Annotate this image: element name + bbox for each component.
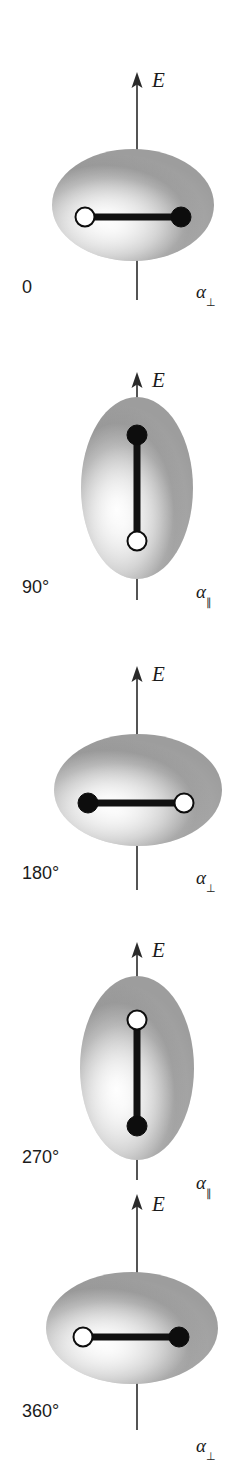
angle-label: 180° [22, 863, 59, 884]
angle-label: 360° [22, 1401, 59, 1422]
panel-360-degrees: E 360° α⊥ [0, 1180, 239, 1473]
atom-light [127, 531, 148, 552]
molecule-dumbbell [73, 205, 193, 229]
angle-label: 270° [22, 1147, 59, 1168]
atom-light [127, 1010, 148, 1031]
ellipsoid-rim [54, 734, 222, 846]
panel-270-degrees: E 270° α∥ [0, 890, 239, 1180]
atom-light [174, 793, 195, 814]
polarizability-ellipsoid [54, 734, 222, 846]
angle-label: 90° [22, 577, 49, 598]
atom-dark [127, 425, 148, 446]
panel-90-degrees: E 90° α∥ [0, 300, 239, 600]
polarizability-rotation-figure: E 0 α⊥ E [0, 0, 239, 1473]
alpha-symbol: α [196, 1435, 206, 1456]
molecular-bond [134, 435, 141, 541]
field-label-E: E [152, 1192, 165, 1217]
alpha-symbol: α [196, 281, 206, 302]
atom-dark [171, 207, 192, 228]
field-label-E: E [152, 662, 165, 687]
alpha-symbol: α [196, 867, 206, 888]
polarizability-label: α⊥ [196, 867, 216, 892]
angle-label: 0 [22, 277, 32, 298]
atom-dark [78, 793, 99, 814]
molecule-dumbbell [125, 1008, 149, 1138]
molecular-bond [88, 800, 184, 807]
molecular-bond [134, 1020, 141, 1126]
field-label-E: E [152, 368, 165, 393]
field-label-E: E [152, 938, 165, 963]
alpha-symbol: α [196, 581, 206, 602]
alpha-subscript: ⊥ [206, 1450, 216, 1462]
panel-180-degrees: E 180° α⊥ [0, 600, 239, 890]
atom-light [75, 207, 96, 228]
molecule-dumbbell [76, 791, 196, 815]
molecular-bond [85, 214, 181, 221]
molecule-dumbbell [71, 1325, 191, 1349]
polarizability-label: α⊥ [196, 1435, 216, 1460]
atom-light [73, 1327, 94, 1348]
molecule-dumbbell [125, 423, 149, 553]
atom-dark [169, 1327, 190, 1348]
field-label-E: E [152, 68, 165, 93]
molecular-bond [83, 1334, 179, 1341]
panel-0-degrees: E 0 α⊥ [0, 0, 239, 300]
atom-dark [127, 1116, 148, 1137]
